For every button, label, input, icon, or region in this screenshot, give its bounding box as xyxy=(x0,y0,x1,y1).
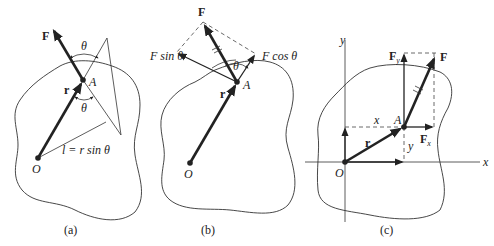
force-label: F xyxy=(42,29,49,43)
perp-component-label: F sin θ xyxy=(149,49,183,63)
caption-c: (c) xyxy=(380,223,393,237)
axis-x-label: x xyxy=(482,155,489,169)
position-label: r xyxy=(64,83,70,97)
origin-point xyxy=(342,159,348,165)
rigid-body-outline xyxy=(161,60,295,213)
force-vector-f xyxy=(54,31,83,80)
force-y-label: Fy xyxy=(389,49,400,65)
position-label: r xyxy=(365,136,371,150)
origin-point xyxy=(35,155,41,161)
origin-point xyxy=(187,160,193,166)
axis-y-label: y xyxy=(339,33,346,47)
caption-a: (a) xyxy=(64,223,77,237)
point-a xyxy=(401,124,407,130)
position-vector-r xyxy=(345,129,400,162)
force-label: F xyxy=(440,50,447,64)
point-a-label: A xyxy=(88,75,97,89)
origin-label: O xyxy=(335,166,344,180)
angle-top-label: θ xyxy=(81,39,87,53)
caption-b: (b) xyxy=(201,223,215,237)
force-label: F xyxy=(198,5,205,19)
origin-label: O xyxy=(184,167,193,181)
parallel-component-label: F cos θ xyxy=(261,49,297,63)
torque-diagram: F r A O θ θ l = r sin θ (a) F r A O θ F … xyxy=(0,0,494,246)
angle-arc-bottom xyxy=(75,97,93,100)
position-label: r xyxy=(220,87,226,101)
point-a-label: A xyxy=(393,113,402,127)
lever-arm-label: l = r sin θ xyxy=(62,143,110,157)
angle-label: θ xyxy=(233,59,239,73)
panel-c: F Fy Fx r A O x y x y (c) xyxy=(305,33,489,237)
origin-label: O xyxy=(32,162,41,176)
coord-x-label: x xyxy=(373,113,380,127)
point-a xyxy=(234,79,240,85)
force-x-label: Fx xyxy=(420,132,431,148)
position-vector-r xyxy=(190,86,235,163)
rigid-body-outline xyxy=(15,61,142,220)
point-a xyxy=(80,77,86,83)
rigid-body-outline xyxy=(317,65,451,219)
panel-a: F r A O θ θ l = r sin θ (a) xyxy=(15,29,142,237)
point-a-label: A xyxy=(242,78,251,92)
angle-bottom-label: θ xyxy=(81,101,87,115)
coord-y-label: y xyxy=(407,139,414,153)
dashed-construction-line xyxy=(177,22,203,52)
panel-b: F r A O θ F sin θ F cos θ (b) xyxy=(149,5,297,237)
angle-arc-top xyxy=(70,54,98,58)
line-of-action xyxy=(107,38,121,135)
